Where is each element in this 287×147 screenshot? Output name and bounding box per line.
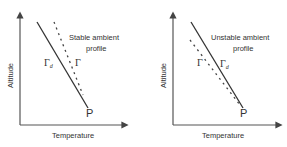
unstable-panel: Γ Γd P Unstable ambient profile Temperat… (159, 15, 279, 140)
y-axis-label: Altitude (6, 63, 15, 88)
gamma-label: Γ (197, 57, 203, 68)
stable-panel: Γd Γ P Stable ambient profile Temperatur… (6, 15, 125, 140)
panel-title-line2: profile (86, 44, 106, 53)
panel-title-line1: Unstable ambient (211, 33, 270, 42)
lapse-rate-diagram: Γd Γ P Stable ambient profile Temperatur… (0, 0, 287, 147)
gamma-label: Γ (75, 57, 81, 68)
y-axis-label: Altitude (159, 63, 168, 88)
x-axis-label: Temperature (202, 131, 244, 140)
gamma-d-label: Γd (220, 58, 230, 70)
point-p-label: P (86, 107, 93, 119)
panel-title-line1: Stable ambient (69, 33, 120, 42)
x-axis-label: Temperature (52, 131, 94, 140)
point-p-label: P (240, 107, 247, 119)
gamma-d-label: Γd (44, 57, 54, 69)
panel-title-line2: profile (233, 44, 253, 53)
